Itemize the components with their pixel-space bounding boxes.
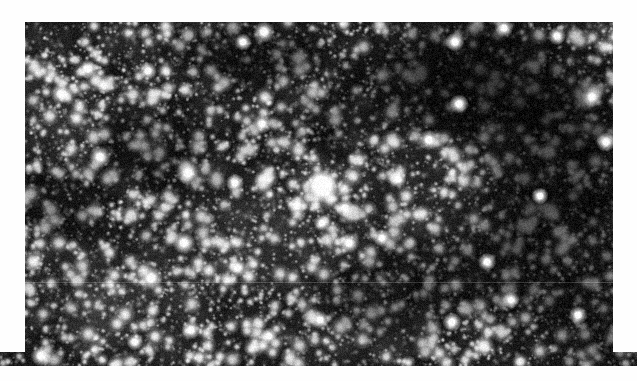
star-field-photograph	[0, 22, 637, 366]
page-root	[0, 0, 637, 381]
star-field-canvas	[0, 22, 637, 366]
